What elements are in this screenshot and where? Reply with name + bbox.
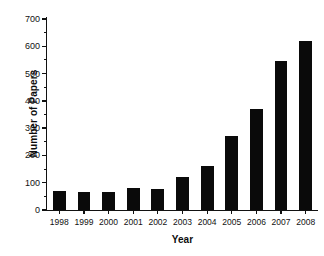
y-tick-minor [44,196,47,197]
x-tick [157,210,158,214]
x-tick-label: 1998 [50,217,69,227]
x-tick-label: 2005 [222,217,241,227]
x-tick [207,210,208,214]
y-tick-label: 600 [10,41,40,51]
x-tick-label: 2003 [173,217,192,227]
bar [201,166,214,210]
y-tick-major [42,73,47,74]
chart-figure: Number of Papers Year 010020030040050060… [0,0,324,256]
bar [102,192,115,210]
y-tick-label: 400 [10,96,40,106]
x-axis-title: Year [41,234,324,245]
x-tick-label: 2004 [198,217,217,227]
bar [225,136,238,210]
y-tick-minor [44,87,47,88]
plot-area: 0100200300400500600700 19981999200020012… [47,19,318,210]
bar [127,188,140,210]
x-tick-label: 2000 [99,217,118,227]
y-tick-major [42,18,47,19]
x-tick [59,210,60,214]
y-tick-minor [44,169,47,170]
x-tick-label: 2006 [247,217,266,227]
bar [250,109,263,211]
y-tick-major [42,209,47,210]
y-tick-label: 500 [10,69,40,79]
bar [275,61,288,210]
y-tick-major [42,100,47,101]
y-tick-minor [44,141,47,142]
x-tick [280,210,281,214]
y-tick-major [42,155,47,156]
y-tick-minor [44,32,47,33]
y-tick-major [42,46,47,47]
x-tick-label: 2008 [296,217,315,227]
x-tick-label: 2002 [148,217,167,227]
bar [78,192,91,210]
x-tick [305,210,306,214]
x-tick [133,210,134,214]
bar [151,189,164,210]
y-tick-label: 100 [10,178,40,188]
y-tick-label: 0 [10,205,40,215]
y-tick-minor [44,59,47,60]
y-tick-major [42,127,47,128]
x-tick [231,210,232,214]
x-tick [83,210,84,214]
y-tick-label: 300 [10,123,40,133]
bar [176,177,189,210]
bar [53,191,66,210]
y-axis-title: Number of Papers [28,34,39,194]
bar [299,41,312,210]
x-tick-label: 1999 [74,217,93,227]
x-tick-label: 2001 [124,217,143,227]
y-tick-minor [44,114,47,115]
x-tick [182,210,183,214]
y-tick-major [42,182,47,183]
y-tick-label: 200 [10,150,40,160]
x-tick [108,210,109,214]
y-tick-label: 700 [10,14,40,24]
x-tick-label: 2007 [272,217,291,227]
x-tick [256,210,257,214]
